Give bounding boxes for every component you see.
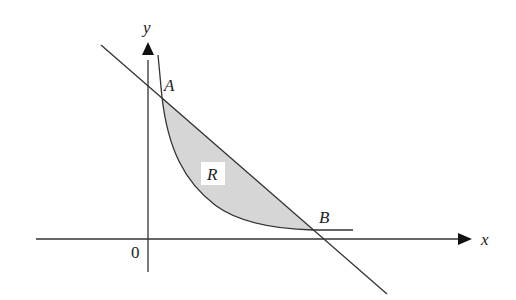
- point-b-label: B: [319, 208, 330, 227]
- diagram-canvas: R y x 0 A B: [0, 0, 516, 300]
- x-axis-label: x: [480, 230, 489, 249]
- x-axis-arrow-icon: [458, 233, 472, 245]
- point-a-label: A: [163, 76, 175, 95]
- straight-line: [101, 45, 387, 294]
- y-axis-label: y: [141, 18, 151, 37]
- y-axis-arrow-icon: [142, 42, 154, 55]
- origin-label: 0: [131, 243, 140, 262]
- region-label: R: [206, 165, 218, 184]
